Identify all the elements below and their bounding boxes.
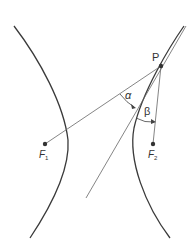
label-f1-sub: 1 — [45, 155, 48, 161]
left-hyperbola-branch — [14, 26, 68, 238]
focus-f2 — [151, 142, 155, 146]
label-f1: F1 — [39, 149, 48, 160]
label-alpha: α — [125, 89, 131, 101]
label-beta: β — [144, 105, 150, 117]
focus-f1 — [43, 142, 47, 146]
label-f2-sub: 2 — [154, 155, 157, 161]
line-p-to-f2 — [153, 66, 161, 144]
label-f2: F2 — [148, 149, 157, 160]
label-p: P — [152, 51, 159, 63]
hyperbola-diagram — [0, 0, 195, 250]
tangent-line — [86, 26, 186, 198]
alpha-arrowhead — [131, 104, 136, 109]
point-p — [159, 64, 163, 68]
